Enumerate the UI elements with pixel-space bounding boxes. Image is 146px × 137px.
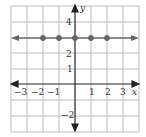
y-axis-label: y (80, 4, 85, 13)
x-tick-2: 2 (105, 88, 111, 97)
x-tick-neg2: −2 (31, 88, 44, 97)
y-tick-4: 4 (66, 18, 72, 27)
y-tick-neg2: −2 (61, 111, 74, 120)
x-tick-1: 1 (89, 88, 95, 97)
y-tick-2: 2 (66, 50, 72, 59)
x-tick-neg3: −3 (14, 88, 27, 97)
x-tick-neg1: −1 (47, 88, 60, 97)
axes (11, 5, 139, 131)
y-tick-1: 1 (67, 65, 73, 74)
x-tick-3: 3 (120, 88, 126, 97)
x-axis-label: x (132, 88, 137, 97)
line-y-equals-3 (11, 35, 139, 41)
